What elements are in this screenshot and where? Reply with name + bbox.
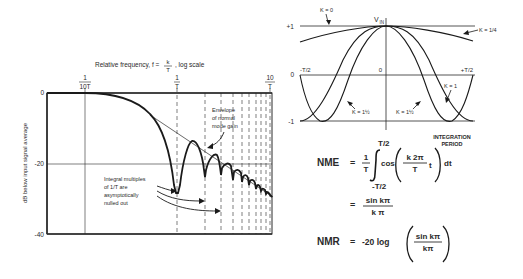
dt-label: dt — [444, 159, 452, 168]
right-paren — [435, 148, 440, 182]
nmr-den: kπ — [423, 244, 434, 253]
right-chart: +1 0 -1 -T/2 0 +T/2 V IN K = 0 K = 1/4 K… — [287, 7, 497, 147]
arrowhead-icon — [347, 101, 353, 106]
inner-fraction-num: k 2π — [406, 153, 423, 162]
x-axis-title-frac-den: T — [166, 67, 170, 73]
label-k-one-and-half-left: K = 1½ — [352, 109, 370, 115]
arrowhead-icon — [463, 30, 469, 35]
curve-k-quarter — [300, 26, 473, 42]
null-pointer-arrows — [157, 186, 217, 211]
lower-limit: -T/2 — [372, 182, 387, 191]
nmr-left-paren — [407, 226, 413, 262]
label-k-quarter: K = 1/4 — [479, 27, 497, 33]
integral-sign — [370, 150, 380, 181]
t-variable: t — [429, 161, 432, 170]
nmr-num: sin kπ — [416, 232, 440, 241]
nmr-right-paren — [443, 226, 449, 262]
x-label-zero: 0 — [379, 67, 383, 73]
x-label-minus-T-2: -T/2 — [300, 67, 311, 73]
label-k-zero: K = 0 — [320, 7, 333, 13]
arrowhead-icon — [215, 208, 221, 214]
y-axis-label: dB below input signal average — [22, 122, 28, 203]
inner-fraction-den: T — [413, 165, 418, 174]
label-k-one: K = 1 — [444, 83, 457, 89]
annotation-nulls-1: Integral multiples — [104, 176, 146, 182]
arrowhead-icon — [326, 20, 331, 25]
y-tick-minus-40: -40 — [35, 231, 45, 238]
vin-subscript: IN — [380, 20, 385, 25]
y-label-minus-one: -1 — [288, 118, 294, 125]
annotation-envelope-3: mode gain — [212, 123, 238, 129]
y-label-plus-one: +1 — [287, 23, 295, 30]
x-label-plus-T-2: +T/2 — [461, 67, 474, 73]
annotation-nulls-3: asymptotically — [104, 192, 139, 198]
sinc-den: k π — [372, 208, 385, 217]
annotation-envelope-1: Envelope — [212, 107, 235, 113]
one-over-T-num: 1 — [364, 153, 369, 162]
diagram-canvas: Relative frequency, f = k T , log scale … — [0, 0, 523, 279]
equations: NME = 1 T T/2 -T/2 cos k 2π T t dt = sin… — [317, 139, 452, 262]
vin-label: V — [374, 16, 379, 23]
upper-limit: T/2 — [378, 139, 390, 148]
nme-label: NME — [317, 157, 340, 168]
one-over-T-den: T — [364, 165, 369, 174]
y-tick-minus-20: -20 — [35, 160, 45, 167]
x-axis-title-frac-num: k — [167, 59, 171, 65]
integration-period-label-2: PERIOD — [441, 141, 462, 147]
nmr-equals: = — [350, 237, 355, 247]
label-k-one-and-half-right: K = 1½ — [396, 109, 414, 115]
left-paren — [396, 148, 401, 182]
annotation-envelope-2: of normal — [212, 115, 235, 121]
arrowhead-icon — [415, 101, 421, 106]
curve-k-one — [300, 26, 473, 121]
second-equals: = — [350, 200, 355, 210]
gain-response-curve — [47, 93, 272, 197]
y-label-zero: 0 — [290, 71, 294, 78]
plot-frame — [47, 93, 272, 234]
y-tick-0: 0 — [40, 89, 44, 96]
nme-equals: = — [350, 158, 355, 168]
left-chart: Relative frequency, f = k T , log scale … — [22, 59, 275, 238]
x-tick-1-T-num: 1 — [175, 74, 179, 81]
integration-period-label-1: INTEGRATION — [433, 134, 471, 140]
x-axis-title-prefix: Relative frequency, f = — [95, 61, 160, 69]
annotation-nulls-2: of 1/T are — [104, 184, 127, 190]
sinc-num: sin kπ — [366, 196, 390, 205]
x-axis-title-suffix: , log scale — [175, 61, 205, 69]
nmr-label: NMR — [317, 236, 341, 247]
x-tick-10-T-num: 10 — [266, 74, 274, 81]
x-tick-1-10T-num: 1 — [83, 74, 87, 81]
curve-k-one-and-half — [300, 26, 473, 121]
cos-label: cos — [381, 159, 395, 168]
arrowhead-icon — [199, 198, 205, 204]
nmr-coefficient: -20 log — [362, 237, 389, 247]
annotation-nulls-4: nulled out — [104, 200, 128, 206]
arrowhead-icon — [207, 143, 213, 149]
